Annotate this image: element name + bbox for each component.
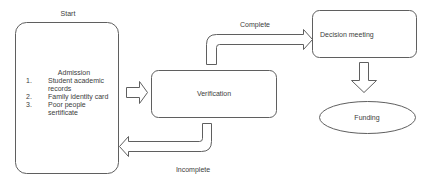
admission-requirements-list: 1. Student academic records 2. Family id… <box>22 77 116 117</box>
verification-label: Verification <box>197 90 231 98</box>
list-item-text: Poor people sertificate <box>48 101 116 117</box>
complete-label: Complete <box>240 21 270 29</box>
list-item-number: 2. <box>22 93 48 101</box>
incomplete-arrow-icon <box>120 124 212 157</box>
decision-meeting-label: Decision meeting <box>320 31 374 39</box>
list-item-text: Family identity card <box>48 93 116 101</box>
start-label: Start <box>61 10 76 18</box>
flow-diagram: Start Admission 1. Student academic reco… <box>0 0 431 185</box>
list-item: 3. Poor people sertificate <box>22 101 116 117</box>
admission-title: Admission <box>22 69 116 77</box>
list-item: 1. Student academic records <box>22 77 116 93</box>
list-item-number: 1. <box>22 77 48 93</box>
list-item-number: 3. <box>22 101 48 117</box>
complete-arrow-icon <box>207 30 313 65</box>
list-item: 2. Family identity card <box>22 93 116 101</box>
list-item-text: Student academic records <box>48 77 116 93</box>
incomplete-label: Incomplete <box>176 166 210 174</box>
arrow-right-icon <box>127 82 148 104</box>
arrow-down-icon <box>352 63 377 93</box>
admission-content: Admission 1. Student academic records 2.… <box>22 69 116 117</box>
funding-label: Funding <box>354 114 379 122</box>
